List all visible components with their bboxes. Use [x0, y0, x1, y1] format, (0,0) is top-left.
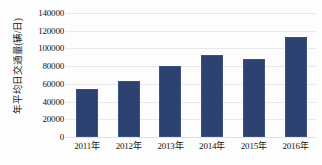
y-axis-tick-label: 60000 [18, 79, 64, 89]
bar [201, 55, 223, 137]
x-axis-tick-labels: 2011年2012年2013年2014年2015年2016年 [66, 139, 316, 155]
bar-chart-figure: 年平均日交通量(辆/日) 020000400006000080000100000… [0, 0, 322, 165]
bar [285, 37, 307, 137]
gridline [66, 137, 316, 138]
x-axis-tick-label: 2013年 [150, 139, 190, 152]
bar [159, 66, 181, 137]
x-axis-tick-label: 2016年 [276, 139, 316, 152]
y-axis-tick-label: 0 [18, 132, 64, 142]
y-axis-tick-label: 80000 [18, 61, 64, 71]
x-axis-tick-label: 2012年 [109, 139, 149, 152]
x-axis-tick-label: 2015年 [234, 139, 274, 152]
bar-slot [150, 13, 190, 137]
bar-slot [192, 13, 232, 137]
y-axis-tick-label: 20000 [18, 114, 64, 124]
bar-slot [67, 13, 107, 137]
bar-slot [234, 13, 274, 137]
y-axis-tick-label: 120000 [18, 26, 64, 36]
bar-series [66, 13, 316, 137]
y-axis-tick-labels: 020000400006000080000100000120000140000 [18, 8, 64, 138]
y-axis-tick-label: 140000 [18, 8, 64, 18]
bar [118, 81, 140, 137]
x-axis-tick-label: 2014年 [192, 139, 232, 152]
plot-area [66, 13, 316, 137]
bar [76, 89, 98, 137]
bar-slot [109, 13, 149, 137]
x-axis-tick-label: 2011年 [67, 139, 107, 152]
bar-slot [276, 13, 316, 137]
bar [243, 59, 265, 137]
y-axis-tick-label: 100000 [18, 43, 64, 53]
y-axis-tick-label: 40000 [18, 97, 64, 107]
